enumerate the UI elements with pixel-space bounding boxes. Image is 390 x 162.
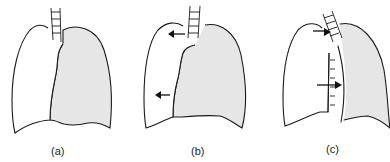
- left-lung-c: [283, 24, 329, 126]
- panel-label-c: (c): [326, 143, 339, 155]
- shaded-lung-c: [340, 23, 390, 128]
- panel-c: [283, 11, 390, 128]
- trachea-b: [188, 6, 200, 38]
- panel-b: [144, 6, 246, 128]
- trachea-c: [323, 11, 342, 42]
- panel-label-a: (a): [51, 145, 64, 157]
- panel-a: [12, 8, 111, 133]
- lung-diagram: [0, 0, 390, 162]
- panel-label-b: (b): [191, 145, 204, 157]
